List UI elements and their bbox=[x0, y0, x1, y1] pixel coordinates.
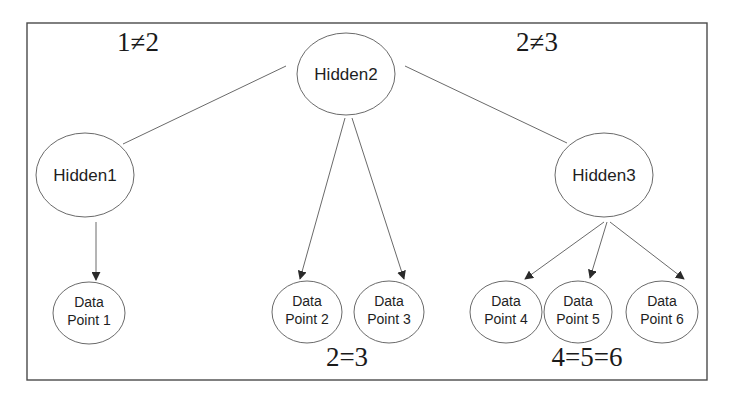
node-dp2: Data Point 2 bbox=[272, 281, 342, 343]
node-dp3: Data Point 3 bbox=[354, 281, 424, 343]
edge-hidden2-hidden1 bbox=[123, 66, 286, 144]
relation-h1-h2: 1≠2 bbox=[117, 27, 159, 57]
node-dp4-label-line2: Point 4 bbox=[484, 311, 528, 327]
node-dp2-label-line1: Data bbox=[292, 293, 322, 309]
node-dp3-label-line2: Point 3 bbox=[367, 311, 411, 327]
edge-hidden2-hidden3 bbox=[405, 66, 567, 143]
node-dp4-label-line1: Data bbox=[491, 293, 521, 309]
node-hidden3: Hidden3 bbox=[555, 133, 653, 217]
node-hidden2: Hidden2 bbox=[297, 33, 395, 115]
node-dp1-label-line2: Point 1 bbox=[67, 312, 111, 328]
hierarchy-diagram: Hidden1 Hidden2 Hidden3 Data Point 1 Dat… bbox=[0, 0, 732, 395]
node-dp2-label-line2: Point 2 bbox=[285, 311, 329, 327]
node-dp1-label-line1: Data bbox=[74, 294, 104, 310]
node-dp3-label-line1: Data bbox=[374, 293, 404, 309]
node-dp5: Data Point 5 bbox=[544, 281, 612, 343]
relation-dp4-dp5-dp6: 4=5=6 bbox=[552, 342, 623, 372]
relation-dp2-dp3: 2=3 bbox=[326, 342, 368, 372]
arrow-hidden2-dp2 bbox=[300, 118, 345, 279]
relation-h2-h3: 2≠3 bbox=[516, 27, 558, 57]
node-dp5-label-line1: Data bbox=[563, 293, 593, 309]
node-hidden1: Hidden1 bbox=[36, 133, 134, 217]
node-hidden2-label: Hidden2 bbox=[314, 65, 377, 84]
node-dp6-label-line1: Data bbox=[647, 293, 677, 309]
arrow-hidden2-dp3 bbox=[352, 118, 404, 279]
node-hidden3-label: Hidden3 bbox=[572, 166, 635, 185]
node-dp1: Data Point 1 bbox=[53, 282, 125, 344]
node-dp6-label-line2: Point 6 bbox=[640, 311, 684, 327]
arrow-hidden3-dp6 bbox=[610, 222, 684, 279]
node-dp5-label-line2: Point 5 bbox=[556, 311, 600, 327]
node-dp6: Data Point 6 bbox=[626, 281, 698, 343]
node-hidden1-label: Hidden1 bbox=[53, 166, 116, 185]
node-dp4: Data Point 4 bbox=[470, 281, 542, 343]
